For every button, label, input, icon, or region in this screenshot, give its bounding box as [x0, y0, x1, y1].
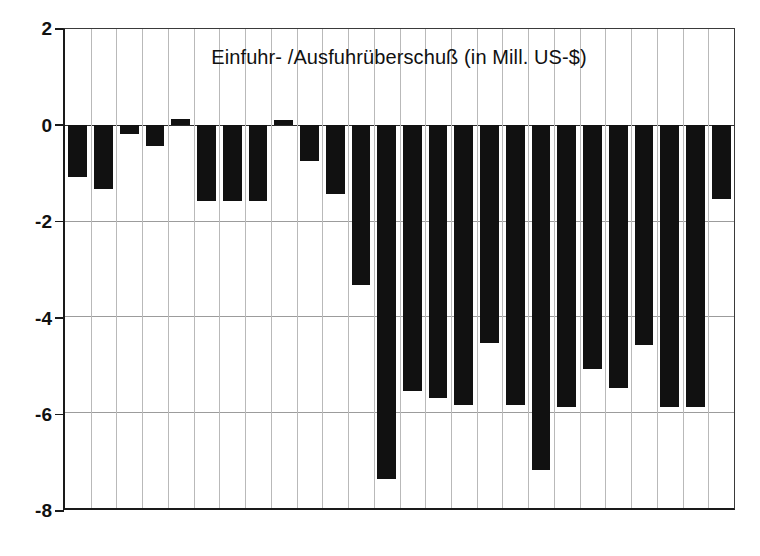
bar — [197, 125, 216, 202]
bar — [300, 125, 319, 161]
bar — [454, 125, 473, 405]
bar — [609, 125, 628, 388]
bar — [557, 125, 576, 408]
y-tick-label-m2: -2 — [10, 212, 52, 231]
bar — [712, 125, 731, 199]
bar — [686, 125, 705, 408]
bar — [120, 125, 139, 135]
bar — [480, 125, 499, 343]
plot-area — [63, 28, 735, 510]
bar — [326, 125, 345, 194]
bar — [171, 119, 190, 125]
y-tick-label-0: 0 — [10, 116, 52, 135]
bar — [146, 125, 165, 147]
y-axis-labels: 2 0 -2 -4 -6 -8 — [0, 0, 52, 556]
bar — [249, 125, 268, 202]
bar — [532, 125, 551, 470]
bar — [377, 125, 396, 479]
bars-layer — [65, 29, 734, 508]
y-tick-mark-m8 — [55, 510, 64, 512]
bar — [68, 125, 87, 178]
bar — [403, 125, 422, 391]
bar — [429, 125, 448, 398]
bar — [506, 125, 525, 405]
y-tick-label-m8: -8 — [10, 501, 52, 520]
bar — [635, 125, 654, 345]
bar — [352, 125, 371, 285]
y-tick-label-2: 2 — [10, 19, 52, 38]
bar-chart-figure: 2 0 -2 -4 -6 -8 Einfuhr- /Ausfuhrübersch… — [0, 0, 760, 556]
bar — [583, 125, 602, 369]
bar — [274, 120, 293, 125]
bar — [223, 125, 242, 202]
chart-title: Einfuhr- /Ausfuhrüberschuß (in Mill. US-… — [63, 46, 735, 69]
y-tick-label-m6: -6 — [10, 405, 52, 424]
bar — [94, 125, 113, 190]
y-tick-label-m4: -4 — [10, 309, 52, 328]
bar — [660, 125, 679, 408]
